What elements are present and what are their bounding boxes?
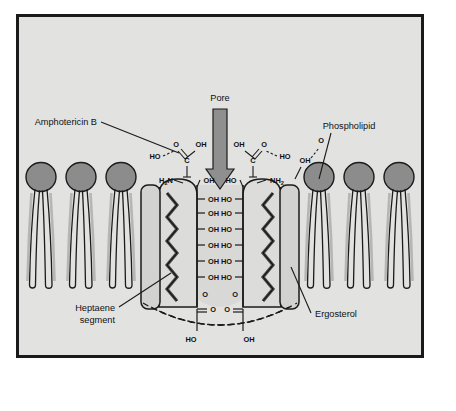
label-o-carbonyl-right-up: O [232,290,238,299]
label-ho-lumen: HO [221,225,232,234]
sterol-right [280,185,299,309]
amphotericin-left [159,179,197,307]
label-ho-bottom-left: HO [185,335,196,344]
label-oh-bottom-right: OH [243,335,254,344]
label-o-right-edge: O [318,136,324,145]
label-ho-lumen: HO [221,241,232,250]
label-ho-top-left: HO [149,152,160,161]
label-ergosterol: Ergosterol [315,309,357,319]
label-heptaene-line2: segment [80,315,116,325]
label-phospholipid: Phospholipid [323,121,376,131]
label-ho-neck-right: HO [225,176,236,185]
label-ho-lumen: HO [221,195,232,204]
amphotericin-right [243,179,281,307]
label-oh-right-edge: OH [299,156,310,165]
label-oh-neck-left: OH [203,176,214,185]
label-o-top-left: O [173,140,179,149]
callout-pore: Pore [210,93,229,103]
label-o-top-right: O [261,140,267,149]
label-ho-top-right: HO [279,152,290,161]
label-heptaene-line1: Heptaene [75,303,115,313]
label-ho-lumen: HO [221,209,232,218]
label-ho-lumen: HO [221,273,232,282]
label-amphotericin-b: Amphotericin B [35,117,97,127]
label-oh-lumen: OH [208,257,219,266]
label-o-carbonyl-right-side: O [224,305,230,314]
label-oh-lumen: OH [208,225,219,234]
label-oh-lumen: OH [208,273,219,282]
label-oh-lumen: OH [208,241,219,250]
diagram-canvas: HO O OH C H2N OH HO O OH C NH2 HO [19,17,421,355]
label-oh-lumen: OH [208,195,219,204]
label-pore: Pore [210,93,229,103]
label-o-carbonyl-left-side: O [210,305,216,314]
figure-stage: HO O OH C H2N OH HO O OH C NH2 HO [0,0,456,411]
label-oh-top-left: OH [195,140,206,149]
membrane-pore-diagram: HO O OH C H2N OH HO O OH C NH2 HO [16,14,424,358]
label-oh-lumen: OH [208,209,219,218]
label-oh-top-right: OH [233,140,244,149]
label-ho-lumen: HO [221,257,232,266]
label-o-carbonyl-left-up: O [202,290,208,299]
